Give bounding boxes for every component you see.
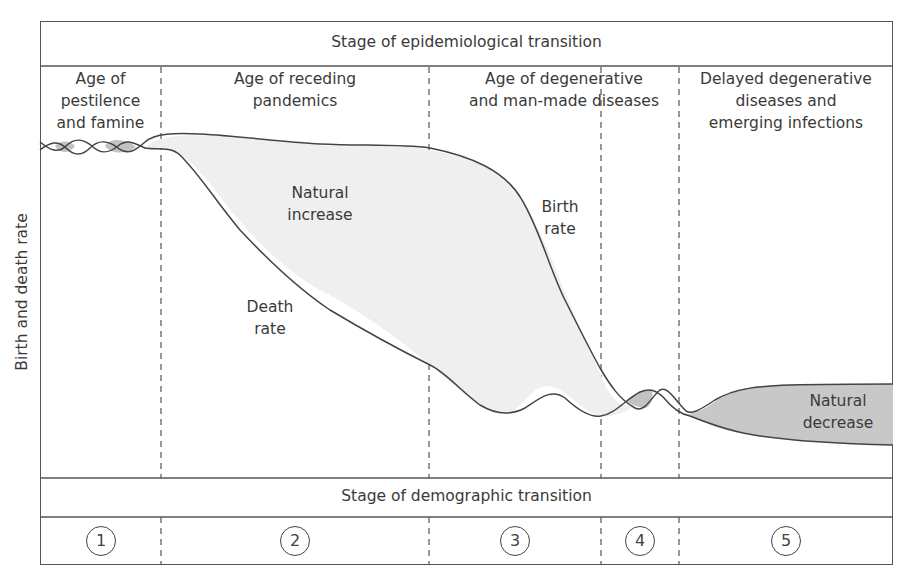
natural-decrease-label: Natural decrease	[793, 390, 883, 434]
stage-1-marker: 1	[86, 526, 116, 556]
era-delayed-degenerative: Delayed degenerative diseases and emergi…	[679, 68, 893, 134]
era-pestilence-famine: Age of pestilence and famine	[40, 68, 161, 134]
stage-4-marker: 4	[625, 526, 655, 556]
era-degenerative-man-made: Age of degenerative and man-made disease…	[429, 68, 699, 112]
era-receding-pandemics: Age of receding pandemics	[161, 68, 429, 112]
demographic-transition-title: Stage of demographic transition	[40, 487, 893, 505]
epidemiological-transition-title: Stage of epidemiological transition	[40, 33, 893, 51]
stage-3-marker: 3	[500, 526, 530, 556]
stage-5-marker: 5	[771, 526, 801, 556]
natural-increase-label: Natural increase	[270, 182, 370, 226]
birth-rate-label: Birth rate	[525, 196, 595, 240]
death-rate-label: Death rate	[230, 296, 310, 340]
stage-2-marker: 2	[280, 526, 310, 556]
natural-increase-area	[145, 135, 640, 416]
